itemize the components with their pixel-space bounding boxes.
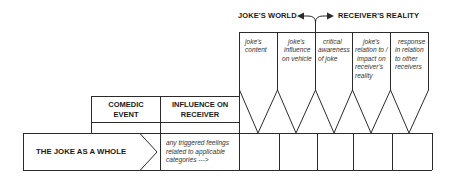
- column-label-influence-on-vehicle: joke'sinfluenceon vehicle: [282, 38, 316, 63]
- note-triggered-feelings: any triggered feelingsrelated to applica…: [166, 139, 238, 165]
- header-influence-on-receiver: INFLUENCE ONRECEIVER: [161, 100, 239, 120]
- column-label-response-others: responsein relationto otherreceivers: [395, 38, 429, 72]
- column-label-relation-to-reality: joke'srelation to /impact onreceiver'sre…: [355, 38, 391, 80]
- column-label-joke-content: joke'scontent: [245, 38, 277, 55]
- split-double-arrow-icon: [297, 13, 334, 20]
- joke-world-label: JOKE'S WORLD: [238, 11, 297, 20]
- row-label-joke-as-whole: THE JOKE AS A WHOLE: [36, 147, 126, 156]
- column-label-critical-awareness: criticalawarenessof joke: [318, 38, 354, 63]
- receiver-reality-label: RECEIVER'S REALITY: [338, 11, 419, 20]
- header-comedic-event: COMEDICEVENT: [92, 100, 160, 120]
